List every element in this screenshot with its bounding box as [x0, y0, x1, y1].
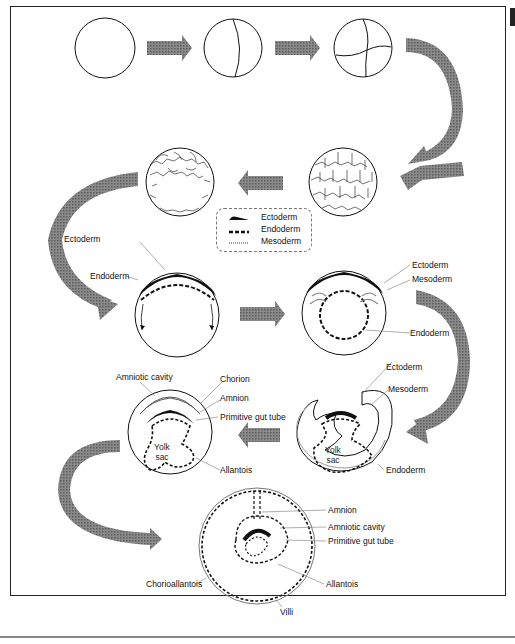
ectoderm-swatch-icon — [229, 217, 249, 222]
arrow-right-1 — [147, 35, 192, 61]
label-primitive-gut-tube-s9: Primitive gut tube — [220, 412, 286, 422]
label-allantois-s10: Allantois — [326, 579, 358, 589]
label-endoderm-s8: Endoderm — [386, 465, 425, 475]
folding-embryo — [297, 390, 393, 472]
label-sac-s9: sac — [155, 452, 169, 462]
legend-mesoderm-label: Mesoderm — [261, 236, 301, 246]
label-chorioallantois-s10: Chorioallantois — [146, 579, 202, 589]
label-primitive-gut-tube-s10: Primitive gut tube — [328, 536, 394, 546]
legend-box: Ectoderm Endoderm Mesoderm — [216, 208, 312, 252]
morula — [309, 148, 377, 216]
label-allantois-s9: Allantois — [220, 465, 252, 475]
label-endoderm-s6: Endoderm — [90, 271, 129, 281]
label-ectoderm-s8: Ectoderm — [386, 362, 422, 372]
label-amnion-s10: Amnion — [328, 505, 357, 515]
arrow-right-2 — [275, 35, 320, 61]
arrow-right-3 — [240, 301, 285, 327]
label-mesoderm-s8: Mesoderm — [388, 384, 428, 394]
label-villi-s10: Villi — [280, 607, 293, 617]
label-amniotic-cavity-s10: Amniotic cavity — [328, 522, 385, 532]
curved-arrow-into-morula — [400, 162, 464, 190]
late-embryo — [199, 488, 315, 604]
label-yolk-s9: Yolk — [154, 442, 171, 452]
label-endoderm-s7: Endoderm — [410, 328, 449, 338]
label-sac-s8: sac — [326, 455, 340, 465]
label-ectoderm-s7: Ectoderm — [412, 260, 448, 270]
amniote-embryo — [128, 390, 212, 474]
curved-arrow-right-down — [406, 38, 463, 164]
two-cell-stage — [204, 19, 262, 77]
four-cell-stage — [334, 19, 392, 77]
zygote-cell — [75, 18, 135, 78]
gastrula-three-layer — [302, 271, 386, 355]
gastrula-two-layer — [135, 273, 219, 357]
label-ectoderm-s6: Ectoderm — [64, 234, 100, 244]
label-chorion-s9: Chorion — [220, 374, 250, 384]
label-amniotic-cavity-s9: Amniotic cavity — [116, 372, 173, 382]
blastula — [146, 148, 214, 216]
legend-ectoderm-label: Ectoderm — [261, 212, 297, 222]
label-amnion-s9: Amnion — [220, 393, 249, 403]
label-mesoderm-s7: Mesoderm — [412, 274, 452, 284]
arrow-left-1 — [238, 170, 283, 196]
label-yolk-s8: Yolk — [325, 445, 342, 455]
legend-endoderm-label: Endoderm — [261, 224, 300, 234]
legend-swatches — [223, 209, 263, 253]
development-diagram: Ectoderm Endoderm Ectoderm Mesoderm Endo… — [0, 0, 515, 644]
arrow-left-2 — [238, 422, 280, 448]
curved-arrow-left-down — [48, 172, 138, 320]
